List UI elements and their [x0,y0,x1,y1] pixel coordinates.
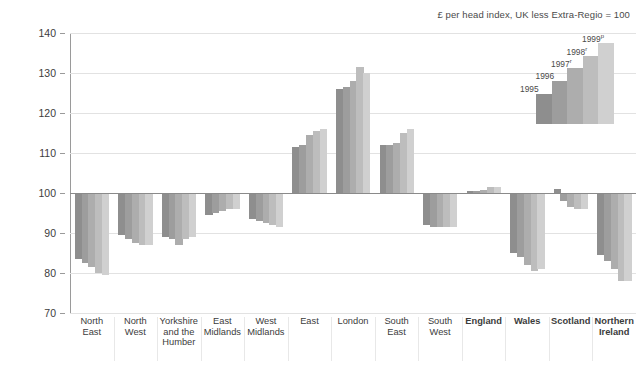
legend-label: 1996 [536,71,555,81]
y-axis-tick-mark [60,113,65,114]
bar [363,73,370,193]
x-axis-category-label: NorthernIreland [592,316,636,337]
baseline-100 [70,193,636,194]
x-label-separator [505,317,506,361]
bar-group [118,33,152,313]
x-label-separator [375,317,376,361]
x-label-separator [331,317,332,361]
regional-gva-index-chart: £ per head index, UK less Extra-Regio = … [0,0,642,367]
x-axis-category-label: England [462,316,506,327]
legend: 199519961997r1998r1999p [536,40,634,124]
bar [450,193,457,227]
bottom-gridline [70,313,636,314]
bar [102,193,109,275]
legend-swatch [536,94,552,124]
x-axis-category-label: SouthWest [418,316,462,337]
legend-label: 1998r [567,46,588,57]
x-label-separator [418,317,419,361]
x-axis-labels: NorthEastNorthWestYorkshireand theHumber… [70,316,636,364]
bar-group [292,33,326,313]
x-axis-category-label: East [288,316,332,327]
bar [320,129,327,193]
y-axis-tick-label: 80 [44,267,56,279]
legend-swatch [598,43,614,124]
x-label-separator [201,317,202,361]
x-label-separator [288,317,289,361]
x-label-separator [592,317,593,361]
bar-group [75,33,109,313]
x-axis-category-label: Yorkshireand theHumber [157,316,201,348]
legend-swatch [583,56,599,124]
bar [145,193,152,245]
x-axis-category-label: Scotland [549,316,593,327]
x-axis-category-label: EastMidlands [201,316,245,337]
x-axis-category-label: SouthEast [375,316,419,337]
x-label-separator [549,317,550,361]
x-label-separator [157,317,158,361]
bar [581,193,588,209]
bar [233,193,240,209]
y-axis-tick-mark [60,273,65,274]
x-axis-category-label: NorthEast [70,316,114,337]
legend-label: 1995 [520,84,539,94]
y-axis-tick-label: 110 [39,147,56,159]
bar-group [423,33,457,313]
bar [276,193,283,227]
x-axis-category-label: Wales [505,316,549,327]
x-axis-category-label: NorthWest [114,316,158,337]
bar-group [467,33,501,313]
y-axis-tick-label: 70 [44,307,56,319]
y-axis-tick-mark [60,193,65,194]
y-axis-tick-mark [60,313,65,314]
bar [407,129,414,193]
y-axis-tick-mark [60,33,65,34]
x-label-separator [114,317,115,361]
legend-label: 1997r [551,58,572,69]
bar-group [162,33,196,313]
y-axis-tick-label: 130 [38,67,56,79]
x-label-separator [244,317,245,361]
bar-group [336,33,370,313]
y-axis-tick-mark [60,233,65,234]
legend-label: 1999p [582,33,604,44]
y-axis-tick-mark [60,153,65,154]
bar [624,193,631,281]
bar-group [249,33,283,313]
x-axis-category-label: London [331,316,375,327]
y-axis-tick-label: 120 [38,107,56,119]
x-axis-category-label: WestMidlands [244,316,288,337]
bar-group [205,33,239,313]
y-axis-labels: 140130120110100908070 [0,0,66,367]
bar [537,193,544,269]
y-axis-tick-label: 140 [38,27,56,39]
legend-swatch [552,81,568,124]
bar-group [380,33,414,313]
y-axis-tick-label: 90 [44,227,56,239]
x-label-separator [462,317,463,361]
bar [189,193,196,237]
y-axis-tick-mark [60,73,65,74]
chart-caption: £ per head index, UK less Extra-Regio = … [437,9,630,20]
legend-swatch [567,68,583,124]
y-axis-tick-label: 100 [38,187,56,199]
